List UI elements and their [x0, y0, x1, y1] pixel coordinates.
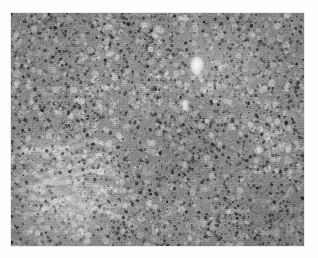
page-root: [0, 0, 318, 258]
scan-smudge-artifact: [3, 2, 25, 9]
histopathology-micrograph: [11, 13, 304, 246]
caption: [11, 248, 304, 256]
micrograph-canvas: [11, 13, 304, 246]
